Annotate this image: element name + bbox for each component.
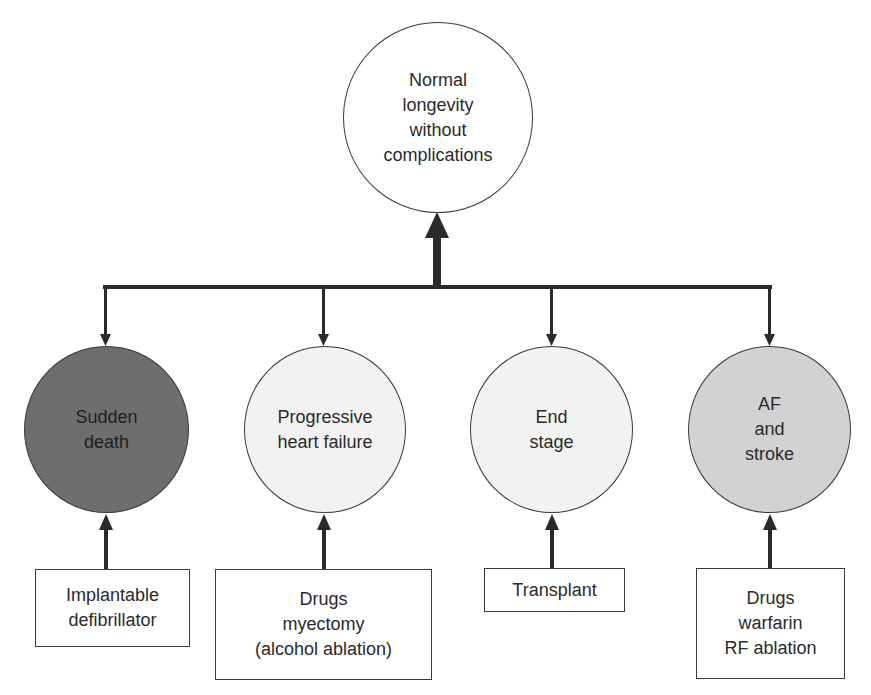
outcome-node-af-stroke: AF and stroke	[688, 346, 851, 513]
treatment-box-implantable-defibrillator: Implantable defibrillator	[35, 569, 190, 647]
branch-arrow-down-icon	[318, 287, 329, 346]
treatment-arrow-up-icon	[317, 514, 331, 576]
treatment-box-transplant: Transplant	[484, 568, 625, 612]
outcome-node-label: Progressive heart failure	[277, 405, 372, 455]
treatment-box-label: Implantable defibrillator	[66, 583, 159, 633]
outcome-node-label: End stage	[529, 405, 573, 455]
diagram-canvas: Normal longevity without complications S…	[0, 0, 871, 695]
goal-node-normal-longevity: Normal longevity without complications	[343, 22, 533, 213]
treatment-box-label: Drugs warfarin RF ablation	[724, 586, 816, 661]
treatment-arrow-up-icon	[99, 514, 113, 574]
branch-arrow-down-icon	[100, 287, 111, 346]
outcome-node-label: Sudden death	[75, 405, 137, 455]
treatment-box-label: Drugs myectomy (alcohol ablation)	[255, 587, 392, 662]
main-arrow-up-icon	[425, 212, 449, 289]
outcome-node-sudden-death: Sudden death	[24, 346, 189, 513]
treatment-arrow-up-icon	[763, 514, 777, 576]
outcome-node-label: AF and stroke	[745, 392, 794, 467]
treatment-box-drugs-warfarin: Drugs warfarin RF ablation	[696, 568, 845, 679]
treatment-box-label: Transplant	[512, 578, 596, 603]
outcome-node-end-stage: End stage	[470, 346, 633, 513]
goal-node-label: Normal longevity without complications	[383, 68, 492, 168]
horizontal-bus-line	[103, 285, 772, 289]
branch-arrow-down-icon	[546, 287, 557, 346]
outcome-node-progressive-heart-failure: Progressive heart failure	[244, 346, 406, 513]
treatment-box-drugs-myectomy: Drugs myectomy (alcohol ablation)	[215, 569, 432, 680]
treatment-arrow-up-icon	[545, 514, 559, 576]
branch-arrow-down-icon	[764, 287, 775, 346]
